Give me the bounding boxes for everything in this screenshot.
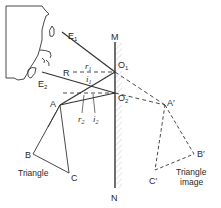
- label-r: R: [63, 68, 70, 78]
- incident-ray-a-o2: [60, 93, 115, 105]
- caption-object-triangle: Triangle: [18, 168, 49, 178]
- reflected-ray-o2-e2: [42, 72, 115, 93]
- label-b: B: [25, 150, 31, 160]
- label-angle-r2: r2: [78, 114, 85, 125]
- label-c: C: [71, 173, 78, 183]
- label-e1: E1: [68, 31, 78, 42]
- angle-r2-pointer: [82, 95, 84, 113]
- label-angle-i1: i1: [86, 74, 92, 85]
- label-e2: E2: [38, 79, 48, 90]
- label-o2: O2: [118, 93, 129, 104]
- observer-head-outline: [6, 6, 54, 80]
- image-triangle: [155, 105, 194, 170]
- label-b-image: B′: [197, 149, 205, 159]
- label-angle-r1: r1: [85, 61, 92, 72]
- label-mirror-bottom: N: [111, 193, 118, 203]
- label-mirror-top: M: [111, 32, 119, 42]
- caption-image-triangle-line2: image: [180, 177, 203, 187]
- object-triangle: [33, 105, 69, 173]
- label-angle-i2: i2: [93, 114, 99, 125]
- label-a: A: [50, 99, 56, 109]
- mirror-reflection-diagram: M N E1 E2 O1 O2 R r1 i1 r2 i2 A B C A′ B…: [0, 0, 221, 208]
- caption-image-triangle-line1: Triangle: [176, 167, 207, 177]
- label-o1: O1: [118, 60, 129, 71]
- label-a-image: A′: [167, 98, 175, 108]
- label-c-image: C′: [149, 176, 157, 186]
